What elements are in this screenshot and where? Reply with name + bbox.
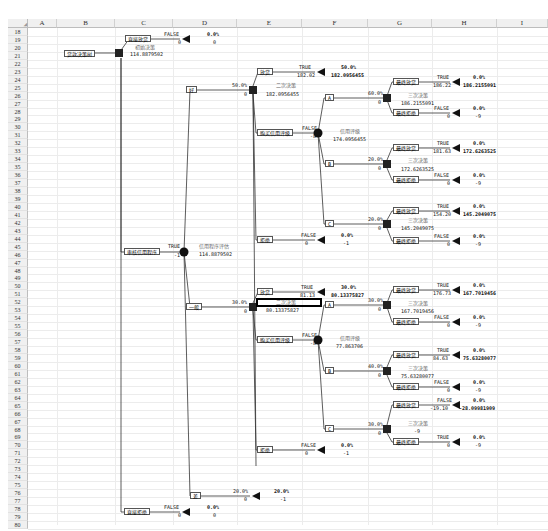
average-b-prob: 40.0% bbox=[368, 363, 383, 370]
average-loan-prob: 30.0% bbox=[341, 284, 356, 291]
average-c-payoff: 0 bbox=[378, 430, 381, 437]
average-a-reject[interactable]: 最终拒绝 bbox=[393, 318, 419, 325]
good-b-reject-value: -9 bbox=[475, 180, 481, 187]
average-rating-branch[interactable]: 购买信用评级 bbox=[257, 336, 293, 343]
average-c-loan-prob: 0.0% bbox=[473, 397, 485, 404]
good-prob: 50.0% bbox=[232, 82, 247, 89]
good-reject-value: -1 bbox=[343, 240, 349, 247]
average-c-decision-value: -9 bbox=[414, 428, 420, 435]
average-c-prob: 30.0% bbox=[368, 421, 383, 428]
good-decision-value: 182.0956455 bbox=[266, 91, 299, 98]
good-reject-prob: 0.0% bbox=[341, 232, 353, 239]
good-a-payoff: 0 bbox=[378, 99, 381, 106]
average-a-reject-payoff: 0 bbox=[447, 322, 450, 329]
average-a-reject-value: -9 bbox=[475, 322, 481, 329]
good-b-reject-prob: 0.0% bbox=[473, 172, 485, 179]
good-reject-branch[interactable]: 拒绝 bbox=[257, 236, 273, 243]
good-loan-payoff: 182.02 bbox=[297, 72, 315, 79]
direct-reject-value: 0 bbox=[213, 512, 216, 519]
good-loan-branch[interactable]: 放贷 bbox=[257, 68, 273, 75]
decision-node-root bbox=[115, 49, 123, 57]
credit-chance-title: 信用程序评估 bbox=[199, 243, 229, 250]
root-decision-title: 初始决策 bbox=[135, 44, 155, 51]
good-a-reject[interactable]: 最终拒绝 bbox=[393, 109, 419, 116]
good-a-loan-prob: 0.0% bbox=[473, 74, 485, 81]
good-c-reject[interactable]: 最终拒绝 bbox=[393, 237, 419, 244]
good-rating-c[interactable]: C bbox=[325, 220, 334, 227]
average-a-reject-prob: 0.0% bbox=[473, 314, 485, 321]
average-rating-b[interactable]: B bbox=[325, 367, 334, 374]
credit-check-branch[interactable]: 审核信用程序 bbox=[124, 248, 160, 255]
direct-loan-value: 0 bbox=[213, 39, 216, 46]
good-rating-branch[interactable]: 购买信用评级 bbox=[257, 129, 293, 136]
good-c-payoff: 0 bbox=[378, 225, 381, 232]
average-rating-c[interactable]: C bbox=[325, 425, 334, 432]
average-b-loan-flag: TRUE bbox=[437, 347, 449, 354]
good-b-reject-flag: FALSE bbox=[434, 172, 449, 179]
average-reject-branch[interactable]: 拒绝 bbox=[257, 446, 273, 453]
average-b-loan-value: 75.63280077 bbox=[463, 355, 496, 362]
direct-reject-branch[interactable]: 直接拒绝 bbox=[124, 508, 150, 515]
direct-loan-prob: 0.0% bbox=[207, 31, 219, 38]
average-c-loan[interactable]: 最终放贷 bbox=[393, 401, 419, 408]
average-c-reject-prob: 0.0% bbox=[473, 434, 485, 441]
good-rating-flag: FALSE bbox=[302, 125, 317, 132]
direct-loan-branch[interactable]: 直接放贷 bbox=[125, 35, 151, 42]
decision-node-good bbox=[249, 86, 257, 94]
average-rating-chance-value: 77.863706 bbox=[336, 343, 363, 350]
average-b-reject[interactable]: 最终拒绝 bbox=[393, 383, 419, 390]
root-decision-value: 114.8879502 bbox=[130, 51, 163, 58]
good-a-reject-value: -9 bbox=[475, 113, 481, 120]
good-rating-b[interactable]: B bbox=[325, 160, 334, 167]
average-rating-chance-title: 信用评级 bbox=[340, 335, 360, 342]
bad-prob: 20.0% bbox=[233, 488, 248, 495]
good-a-decision-title: 三次决策 bbox=[408, 92, 428, 99]
average-b-loan[interactable]: 最终放贷 bbox=[393, 351, 419, 358]
good-b-loan-value: 172.6263525 bbox=[463, 148, 496, 155]
average-c-loan-payoff: -19.10 bbox=[430, 405, 448, 412]
good-c-loan-value: 145.2049075 bbox=[463, 211, 496, 218]
root-node-label[interactable]: 贷款决策树 bbox=[64, 50, 95, 57]
average-a-loan[interactable]: 最终放贷 bbox=[393, 286, 419, 293]
average-loan-flag: TRUE bbox=[301, 284, 313, 291]
good-b-decision-title: 三次决策 bbox=[408, 157, 428, 164]
average-b-decision-title: 三次决策 bbox=[408, 365, 428, 372]
average-reject-payoff: 0 bbox=[305, 450, 308, 457]
average-a-payoff: 0 bbox=[378, 306, 381, 313]
good-rating-payoff: -8 bbox=[310, 133, 316, 140]
average-c-reject[interactable]: 最终拒绝 bbox=[393, 438, 419, 445]
average-loan-branch[interactable]: 放贷 bbox=[257, 288, 273, 295]
average-c-loan-flag: FALSE bbox=[437, 397, 452, 404]
bad-payoff: 0 bbox=[244, 496, 247, 503]
good-a-loan[interactable]: 最终放贷 bbox=[393, 78, 419, 85]
average-b-reject-prob: 0.0% bbox=[473, 379, 485, 386]
good-rating-a[interactable]: A bbox=[325, 94, 334, 101]
good-b-loan[interactable]: 最终放贷 bbox=[393, 144, 419, 151]
good-a-reject-prob: 0.0% bbox=[473, 105, 485, 112]
average-decision-title: 二次决策 bbox=[276, 299, 296, 306]
good-b-loan-flag: TRUE bbox=[437, 140, 449, 147]
good-b-reject[interactable]: 最终拒绝 bbox=[393, 176, 419, 183]
average-reject-flag: FALSE bbox=[301, 442, 316, 449]
good-rating-chance-value: 174.0956455 bbox=[333, 136, 366, 143]
average-branch[interactable]: 一般 bbox=[186, 303, 202, 310]
good-branch[interactable]: 好 bbox=[186, 86, 197, 93]
good-a-decision-value: 186.2155091 bbox=[401, 100, 434, 107]
credit-check-payoff: -1 bbox=[174, 252, 180, 259]
average-c-reject-value: -9 bbox=[475, 442, 481, 449]
average-reject-value: -1 bbox=[343, 450, 349, 457]
direct-reject-prob: 0.0% bbox=[207, 504, 219, 511]
average-a-loan-prob: 0.0% bbox=[473, 282, 485, 289]
good-a-loan-payoff: 186.22 bbox=[433, 82, 451, 89]
good-b-reject-payoff: 0 bbox=[447, 180, 450, 187]
average-rating-flag: FALSE bbox=[302, 332, 317, 339]
decision-tree-lines bbox=[0, 0, 548, 531]
good-c-loan[interactable]: 最终放贷 bbox=[393, 207, 419, 214]
credit-check-flag: TRUE bbox=[168, 243, 180, 250]
good-decision-title: 二次决策 bbox=[276, 82, 296, 89]
direct-reject-payoff: 0 bbox=[178, 512, 181, 519]
bad-branch[interactable]: 差 bbox=[190, 492, 201, 499]
average-rating-a[interactable]: A bbox=[325, 301, 334, 308]
good-c-loan-flag: TRUE bbox=[437, 203, 449, 210]
average-b-loan-payoff: 84.63 bbox=[433, 355, 448, 362]
